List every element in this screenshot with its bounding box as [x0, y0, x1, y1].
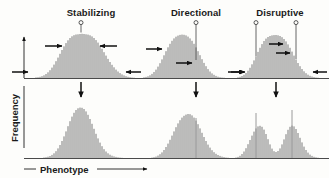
selection-arrows-stabilizing-before	[12, 46, 141, 72]
frequency-axis-label: Frequency	[9, 93, 20, 142]
directional-selection-panel-before	[144, 21, 244, 78]
histogram-bars-disruptive-before	[238, 35, 318, 78]
disruptive-selection-panel-after	[236, 110, 318, 158]
panel-titles: Stabilizing Directional Disruptive	[67, 7, 304, 18]
disruptive-selection-panel-before	[231, 21, 327, 78]
before-selection-row	[12, 21, 329, 79]
frequency-axis: Frequency	[9, 37, 24, 148]
optimum-marker-directional	[194, 21, 198, 60]
histogram-bars-directional-before	[144, 35, 224, 78]
histogram-bars-directional-after	[152, 114, 228, 158]
transition-arrows	[81, 82, 276, 97]
histogram-bars-disruptive-after	[236, 126, 318, 158]
stabilizing-selection-panel-after	[44, 108, 122, 158]
phenotype-axis-label: Phenotype	[40, 164, 89, 175]
stabilizing-selection-panel-before	[12, 21, 141, 78]
optimum-marker-stabilizing	[79, 21, 83, 33]
title-stabilizing: Stabilizing	[67, 7, 116, 18]
directional-selection-panel-after	[152, 114, 228, 158]
title-disruptive: Disruptive	[256, 7, 303, 18]
selection-arrows-disruptive-before	[231, 44, 327, 72]
phenotype-axis: Phenotype	[24, 164, 147, 175]
selection-types-diagram: Stabilizing Directional Disruptive Frequ…	[0, 0, 329, 178]
histogram-bars-stabilizing-before	[36, 34, 134, 78]
selection-arrows-directional-before	[146, 49, 244, 72]
after-selection-row	[24, 108, 329, 159]
title-directional: Directional	[171, 7, 221, 18]
histogram-bars-stabilizing-after	[44, 108, 122, 158]
